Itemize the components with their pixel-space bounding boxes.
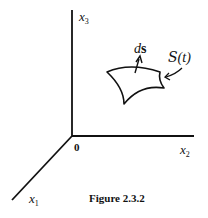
x2-label: x2 [180,143,190,159]
x3-label: x3 [79,10,89,26]
figure-2-3-2: x3 x2 x1 0 ds S(t) Figure 2.3.2 [0,0,208,218]
surface-label: S(t) [168,50,191,65]
axes-diagram [0,0,208,218]
pointer-arrow [166,68,182,77]
normal-vector-label: ds [134,42,146,56]
x1-axis [12,136,72,200]
x1-label: x1 [29,192,39,208]
origin-label: 0 [74,142,80,153]
figure-caption: Figure 2.3.2 [89,193,145,204]
